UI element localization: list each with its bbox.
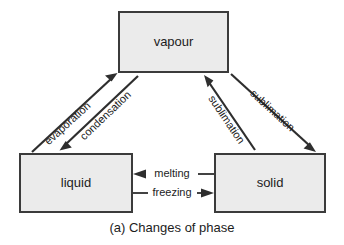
- sublimation-up-label: sublimation: [206, 93, 247, 146]
- diagram-canvas: vapour liquid solid evaporation condensa…: [0, 0, 344, 245]
- liquid-box-label: liquid: [61, 175, 91, 190]
- arrow-sublimation-solid-to-vapour: sublimation: [204, 75, 255, 150]
- condensation-arrow-head: [60, 141, 72, 151]
- condensation-label: condensation: [77, 88, 133, 142]
- sublimation-down-arrow-head: [304, 142, 316, 152]
- freezing-arrow-head: [201, 189, 214, 198]
- phase-box-solid: solid: [215, 154, 325, 212]
- melting-arrow-head: [133, 170, 146, 179]
- phase-box-vapour: vapour: [119, 12, 228, 72]
- arrow-melting: melting: [133, 167, 214, 179]
- arrow-freezing: freezing: [133, 186, 214, 198]
- sublimation-down-label: sublimation: [248, 87, 297, 133]
- phase-change-diagram: vapour liquid solid evaporation condensa…: [0, 0, 344, 245]
- evaporation-arrow-head: [105, 73, 118, 82]
- solid-box-label: solid: [257, 175, 284, 190]
- phase-box-liquid: liquid: [20, 154, 132, 212]
- melting-label: melting: [154, 167, 189, 179]
- vapour-box-label: vapour: [154, 34, 194, 49]
- freezing-label: freezing: [152, 186, 191, 198]
- figure-caption: (a) Changes of phase: [109, 220, 234, 235]
